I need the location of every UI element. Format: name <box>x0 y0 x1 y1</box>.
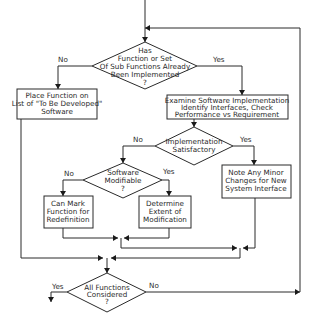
d3-line-3: ? <box>121 184 125 193</box>
d2-yes-label: Yes <box>239 135 252 144</box>
d3-no-label: No <box>64 169 74 178</box>
b-mark-line-3: Redefinition <box>47 215 90 224</box>
d4-yes-label: Yes <box>51 282 64 291</box>
d4-no-label: No <box>149 281 159 290</box>
b-note-line-3: System Interface <box>225 184 287 193</box>
d1-line-5: ? <box>143 78 147 87</box>
d1-yes-branch: Yes <box>197 55 245 95</box>
b-right-line-3: Performance vs Requirement <box>175 110 280 119</box>
d1-no-label: No <box>58 55 68 64</box>
entry-connector <box>142 0 300 42</box>
decision-all-functions-considered: All Functions Considered ? <box>67 273 146 312</box>
box-extent-modification: Determine Extent of Modification <box>139 196 191 228</box>
box-note-minor-changes: Note Any Minor Changes for New System In… <box>222 165 291 198</box>
d1-yes-label: Yes <box>212 55 225 64</box>
d4-no-branch: No <box>146 281 300 295</box>
b-left-line-3: Software <box>41 107 73 116</box>
decision-software-modifiable: Software Modifiable ? <box>83 163 162 198</box>
d3-yes-label: Yes <box>162 167 175 176</box>
b-extent-line-3: Modification <box>143 215 187 224</box>
decision-implementation-satisfactory: Implementation Satisfactory <box>155 127 233 165</box>
d1-no-branch: No <box>55 55 92 89</box>
examine-to-d2 <box>191 119 197 127</box>
box-mark-redefinition: Can Mark Function for Redefinition <box>44 196 93 228</box>
flowchart: Has Function or Set Of Sub Functions Alr… <box>0 0 312 325</box>
d2-line-2: Satisfactory <box>173 145 217 154</box>
d3-yes-branch: Yes <box>162 167 175 196</box>
d2-yes-branch: Yes <box>233 135 257 165</box>
d4-line-3: ? <box>105 297 109 306</box>
d2-no-branch: No <box>120 135 155 163</box>
d4-yes-branch: Yes <box>48 282 67 302</box>
box-to-be-developed: Place Function on List of "To Be Develop… <box>12 89 103 119</box>
box-examine-implementation: Examine Software Implementation Identify… <box>165 95 290 119</box>
decision-already-implemented: Has Function or Set Of Sub Functions Alr… <box>92 42 197 89</box>
d3-no-branch: No <box>60 169 83 196</box>
d2-no-label: No <box>133 135 143 144</box>
